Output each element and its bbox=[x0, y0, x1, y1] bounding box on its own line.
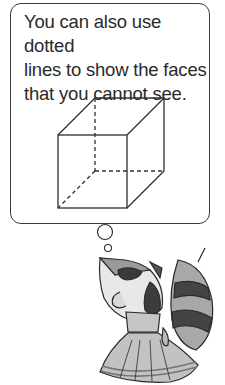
illustration bbox=[0, 0, 225, 385]
cube-icon bbox=[58, 98, 164, 208]
thought-circle-large bbox=[98, 225, 113, 240]
raccoon-character-icon bbox=[100, 248, 213, 382]
thought-circle-small bbox=[105, 245, 112, 252]
